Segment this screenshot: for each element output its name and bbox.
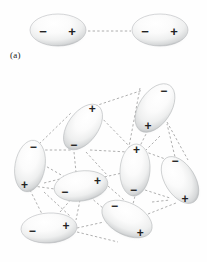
dipole-b-center-plus-sign: + — [133, 143, 140, 157]
dipole-a-left: −+ — [30, 14, 88, 49]
panel-b-link-11 — [74, 152, 76, 172]
dipole-b-bottom-center-minus-sign: − — [111, 199, 118, 213]
panel-b-link-15 — [108, 186, 124, 200]
dipole-figure: −+−+ −+−+−+−+−+−+−+−+ (a) — [0, 0, 207, 262]
panel-b-link-22 — [145, 190, 170, 198]
dipole-b-top-right-body — [127, 77, 183, 140]
panel-b-dipoles: −+−+−+−+−+−+−+−+ — [10, 73, 207, 255]
dipole-b-top-right-minus-sign: − — [160, 84, 167, 98]
dipole-a-left-plus-sign: + — [68, 24, 76, 39]
dipole-b-top-center-minus-sign: − — [70, 138, 77, 152]
dipole-b-bottom-left-minus-sign: − — [29, 224, 36, 238]
dipole-b-middle-plus-sign: + — [94, 174, 101, 188]
dipole-b-center: −+ — [118, 142, 154, 201]
dipole-b-right-minus-sign: − — [172, 154, 179, 168]
dipole-a-right-plus-sign: + — [170, 24, 178, 39]
panel-a-label: (a) — [10, 50, 21, 60]
dipole-b-center-minus-sign: − — [130, 183, 137, 197]
panel-b-link-13 — [90, 150, 128, 152]
dipole-a-right-minus-sign: − — [141, 24, 149, 39]
dipole-b-right-plus-sign: + — [181, 192, 188, 206]
dipole-b-left-upper: −+ — [10, 137, 51, 198]
figure-canvas: −+−+ −+−+−+−+−+−+−+−+ — [0, 0, 207, 262]
panel-b-link-19 — [77, 232, 118, 242]
dipole-a-right: −+ — [132, 14, 190, 49]
dipole-a-left-minus-sign: − — [39, 24, 47, 39]
dipole-b-bottom-center-plus-sign: + — [137, 226, 144, 240]
dipole-b-middle: −+ — [52, 167, 112, 208]
dipole-b-top-right-plus-sign: + — [144, 119, 151, 133]
dipole-b-bottom-left: −+ — [20, 211, 80, 247]
panel-a-dipoles: −+−+ — [30, 14, 190, 49]
panel-b-link-1 — [95, 90, 143, 106]
dipole-b-middle-minus-sign: − — [61, 185, 68, 199]
panel-b-link-18 — [77, 222, 104, 228]
dipole-b-right: −+ — [148, 146, 207, 216]
dipole-b-left-upper-minus-sign: − — [30, 140, 37, 154]
dipole-b-left-upper-plus-sign: + — [21, 178, 28, 192]
dipole-b-top-right: −+ — [120, 73, 190, 146]
panel-b-link-24 — [148, 203, 176, 214]
dipole-b-bottom-left-plus-sign: + — [62, 219, 69, 233]
panel-b-link-23 — [152, 200, 170, 202]
panel-b-link-26 — [146, 136, 160, 150]
dipole-b-top-center-plus-sign: + — [89, 102, 96, 116]
